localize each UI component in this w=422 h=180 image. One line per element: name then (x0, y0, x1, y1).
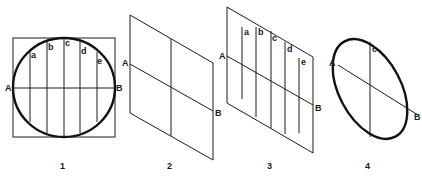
figure-1-label-chord-e: e (97, 56, 102, 66)
diagram-canvas: A B a b c d e 1 A B 2 a b c d e A B 3 (0, 0, 422, 180)
figure-2-label-b-point: B (215, 108, 222, 118)
figure-1-number: 1 (60, 161, 65, 171)
figure-4: A B c 4 (317, 27, 422, 171)
figure-4-label-a-point: A (329, 58, 336, 68)
figure-1-label-chord-b: b (48, 42, 54, 52)
figure-4-label-c: c (372, 44, 377, 54)
figure-3-label-chord-e: e (301, 57, 306, 67)
figure-1-label-chord-a: a (31, 50, 37, 60)
figure-4-number: 4 (365, 161, 370, 171)
figure-3-number: 3 (267, 161, 272, 171)
figure-3-label-chord-d: d (287, 44, 293, 54)
figure-3: a b c d e A B 3 (219, 7, 322, 171)
figure-3-label-chord-a: a (244, 27, 250, 37)
figure-3-label-a-point: A (219, 51, 226, 61)
figure-1-label-a-point: A (5, 83, 12, 93)
figure-2: A B 2 (122, 15, 222, 171)
figure-3-label-chord-b: b (258, 27, 264, 37)
figure-3-label-b-point: B (315, 103, 322, 113)
figure-1-label-chord-c: c (65, 38, 70, 48)
figure-2-label-a-point: A (122, 58, 129, 68)
figure-1: A B a b c d e 1 (5, 38, 123, 171)
figure-4-axis-ab (338, 65, 418, 115)
figure-1-label-b-point: B (116, 83, 123, 93)
figure-2-number: 2 (167, 161, 172, 171)
figure-3-label-chord-c: c (272, 33, 277, 43)
figure-1-label-chord-d: d (81, 46, 87, 56)
figure-4-label-b-point: B (414, 112, 421, 122)
